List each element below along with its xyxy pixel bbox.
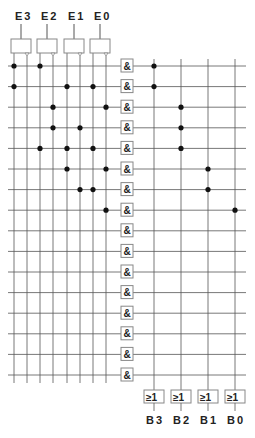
- connection-dot: [11, 63, 16, 68]
- svg-text:≥1: ≥1: [227, 392, 238, 403]
- connection-dot: [64, 146, 69, 151]
- svg-text:&: &: [124, 164, 131, 175]
- and-gate: &: [121, 306, 133, 319]
- and-gate: &: [121, 121, 133, 134]
- connection-dot: [37, 63, 42, 68]
- output-label-b2: B2: [173, 414, 191, 426]
- and-gate: &: [121, 59, 133, 72]
- svg-text:≥1: ≥1: [173, 392, 184, 403]
- connection-dot: [178, 105, 183, 110]
- and-gate: &: [121, 141, 133, 154]
- svg-text:&: &: [124, 308, 131, 319]
- connection-dot: [11, 84, 16, 89]
- output-label-b3: B3: [146, 414, 164, 426]
- and-gate: &: [121, 286, 133, 299]
- input-buffer-box: [11, 39, 31, 53]
- output-section: ≥1B3≥1B2≥1B1≥1B0: [144, 390, 245, 426]
- svg-text:&: &: [124, 225, 131, 236]
- and-gate: &: [121, 368, 133, 381]
- svg-text:&: &: [124, 81, 131, 92]
- connection-dot: [232, 208, 237, 213]
- output-label-b0: B0: [227, 414, 245, 426]
- svg-text:&: &: [124, 122, 131, 133]
- inverter-icon: [104, 53, 108, 56]
- connection-dot: [50, 105, 55, 110]
- input-buffer-box: [64, 39, 84, 53]
- or-gate-b1: ≥1: [198, 390, 218, 403]
- svg-text:&: &: [124, 287, 131, 298]
- svg-text:≥1: ≥1: [146, 392, 157, 403]
- or-gate-b3: ≥1: [144, 390, 164, 403]
- connection-dot: [178, 125, 183, 130]
- and-gate-array: &&&&&&&&&&&&&&&&: [121, 59, 133, 381]
- and-gate: &: [121, 224, 133, 237]
- connection-dot: [64, 166, 69, 171]
- connection-dot: [77, 125, 82, 130]
- input-label-e3: E3: [15, 10, 32, 22]
- and-gate: &: [121, 100, 133, 113]
- inverter-icon: [25, 53, 29, 56]
- or-gate-b0: ≥1: [225, 390, 245, 403]
- and-gate: &: [121, 162, 133, 175]
- or-gate-b2: ≥1: [171, 390, 191, 403]
- svg-text:&: &: [124, 143, 131, 154]
- svg-text:&: &: [124, 328, 131, 339]
- connection-dot: [103, 166, 108, 171]
- and-gate: &: [121, 265, 133, 278]
- input-label-e1: E1: [68, 10, 85, 22]
- svg-text:&: &: [124, 267, 131, 278]
- connection-dot: [37, 146, 42, 151]
- svg-text:&: &: [124, 61, 131, 72]
- connection-dot: [90, 84, 95, 89]
- svg-text:&: &: [124, 102, 131, 113]
- input-label-e2: E2: [41, 10, 58, 22]
- svg-text:&: &: [124, 246, 131, 257]
- connection-dot: [151, 63, 156, 68]
- connection-dot: [205, 187, 210, 192]
- connection-dot: [77, 187, 82, 192]
- and-gate: &: [121, 203, 133, 216]
- and-gate: &: [121, 327, 133, 340]
- svg-text:&: &: [124, 370, 131, 381]
- and-gate: &: [121, 183, 133, 196]
- output-label-b1: B1: [200, 414, 218, 426]
- input-buffer-box: [90, 39, 110, 53]
- connection-dot: [205, 166, 210, 171]
- inverter-icon: [78, 53, 82, 56]
- and-gate: &: [121, 80, 133, 93]
- connection-dot: [178, 146, 183, 151]
- inverter-icon: [51, 53, 55, 56]
- input-section: E3E2E1E0: [11, 10, 111, 56]
- connection-dot: [103, 105, 108, 110]
- and-gate: &: [121, 244, 133, 257]
- svg-text:&: &: [124, 349, 131, 360]
- connection-dot: [90, 146, 95, 151]
- input-label-e0: E0: [94, 10, 111, 22]
- connection-dot: [90, 187, 95, 192]
- input-buffer-box: [37, 39, 57, 53]
- svg-text:&: &: [124, 184, 131, 195]
- connection-dot: [50, 125, 55, 130]
- connection-dot: [151, 84, 156, 89]
- connection-dot: [64, 84, 69, 89]
- pla-diagram: E3E2E1E0 &&&&&&&&&&&&&&&& ≥1B3≥1B2≥1B1≥1…: [0, 0, 255, 438]
- svg-text:≥1: ≥1: [200, 392, 211, 403]
- and-gate: &: [121, 347, 133, 360]
- svg-text:&: &: [124, 205, 131, 216]
- connection-dot: [103, 208, 108, 213]
